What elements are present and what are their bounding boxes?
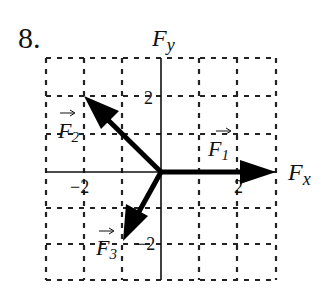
- vector-f1: [161, 160, 276, 184]
- force-vector-diagram: 8. Fy Fx 2 −2 −2 2: [0, 0, 333, 291]
- arrowhead-f1: [240, 160, 276, 184]
- svg-text:F1: F1: [207, 136, 229, 163]
- y-axis-label: Fy: [151, 25, 175, 55]
- problem-number: 8.: [18, 21, 41, 54]
- x-axis-label: Fx: [287, 159, 311, 189]
- vector-label-f2: F2: [57, 110, 79, 145]
- vector-f3: [123, 172, 161, 241]
- svg-text:F3: F3: [95, 235, 117, 262]
- vector-label-f1: F1: [207, 128, 231, 163]
- tick-label-x-neg: −2: [70, 177, 89, 197]
- tick-label-y-pos: 2: [144, 88, 153, 108]
- tick-label-y-neg: −2: [136, 234, 155, 254]
- svg-text:F2: F2: [57, 118, 79, 145]
